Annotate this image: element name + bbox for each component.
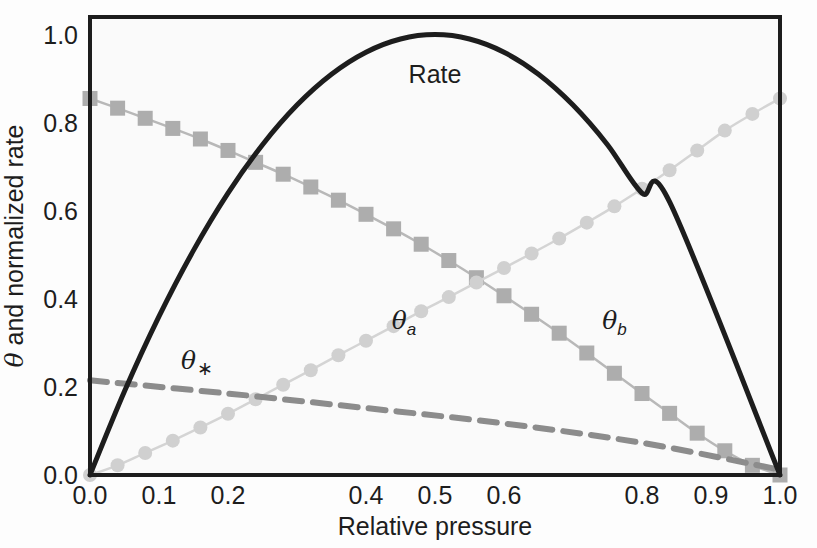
data-point-marker	[414, 304, 428, 318]
annotation-theta-b: θb	[602, 306, 627, 340]
theta-star-subscript: ∗	[197, 358, 213, 379]
data-point-marker	[552, 326, 567, 341]
data-point-marker	[221, 407, 235, 421]
data-point-marker	[165, 121, 180, 136]
x-tick-label: 0.1	[142, 481, 177, 510]
data-point-marker	[331, 193, 346, 208]
data-point-marker	[276, 378, 290, 392]
y-axis-theta-symbol: θ	[0, 352, 29, 367]
annotation-theta-star: θ∗	[181, 345, 213, 380]
theta-b-symbol: θ	[602, 306, 617, 335]
x-tick-label: 0.8	[625, 481, 660, 510]
data-point-marker	[441, 253, 456, 268]
y-tick-label: 0.2	[43, 372, 78, 401]
data-point-marker	[607, 366, 622, 381]
data-point-marker	[690, 143, 704, 157]
x-tick-label: 1.0	[763, 481, 798, 510]
theta-a-symbol: θ	[392, 306, 407, 335]
y-axis-label: θ and normalized rate	[0, 125, 29, 368]
y-tick-label: 0.6	[43, 196, 78, 225]
data-point-marker	[745, 107, 759, 121]
data-point-marker	[662, 406, 677, 421]
x-axis-label: Relative pressure	[338, 512, 533, 541]
data-point-marker	[442, 290, 456, 304]
data-point-marker	[331, 348, 345, 362]
x-tick-label: 0.9	[694, 481, 729, 510]
figure-container: 0.00.10.20.40.50.60.80.91.0 0.00.20.40.6…	[0, 0, 817, 548]
data-point-marker	[580, 216, 594, 230]
data-point-marker	[635, 386, 650, 401]
data-point-marker	[469, 276, 483, 290]
y-axis-label-text: and normalized rate	[0, 125, 28, 353]
data-point-marker	[110, 101, 125, 116]
y-tick-label: 0.0	[43, 461, 78, 490]
data-point-marker	[579, 346, 594, 361]
data-point-marker	[193, 131, 208, 146]
y-tick-label: 0.8	[43, 108, 78, 137]
data-point-marker	[138, 111, 153, 126]
theta-b-subscript: b	[617, 320, 626, 339]
x-tick-label: 0.4	[349, 481, 384, 510]
y-tick-label: 0.4	[43, 284, 78, 313]
data-point-marker	[386, 221, 401, 236]
data-point-marker	[690, 426, 705, 441]
data-point-marker	[303, 179, 318, 194]
data-point-marker	[414, 237, 429, 252]
data-point-marker	[138, 446, 152, 460]
data-point-marker	[552, 232, 566, 246]
data-point-marker	[524, 307, 539, 322]
data-point-marker	[663, 163, 677, 177]
x-tick-label: 0.2	[211, 481, 246, 510]
y-tick-label: 1.0	[43, 20, 78, 49]
annotation-rate: Rate	[409, 60, 462, 89]
x-tick-label: 0.6	[487, 481, 522, 510]
data-point-marker	[497, 288, 512, 303]
data-point-marker	[304, 363, 318, 377]
annotation-theta-a: θa	[392, 306, 417, 340]
data-point-marker	[221, 143, 236, 158]
data-point-marker	[525, 246, 539, 260]
data-point-marker	[359, 207, 374, 222]
x-tick-label: 0.5	[418, 481, 453, 510]
data-point-marker	[276, 167, 291, 182]
data-point-marker	[193, 420, 207, 434]
data-point-marker	[718, 124, 732, 138]
data-point-marker	[166, 434, 180, 448]
data-point-marker	[607, 199, 621, 213]
data-point-marker	[111, 458, 125, 472]
theta-a-subscript: a	[407, 320, 416, 339]
theta-star-symbol: θ	[181, 345, 196, 374]
data-point-marker	[497, 261, 511, 275]
data-point-marker	[359, 334, 373, 348]
